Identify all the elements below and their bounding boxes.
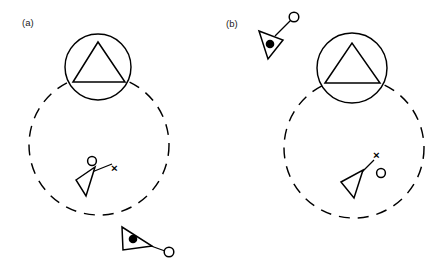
- panel-b: (b) ×: [226, 12, 424, 218]
- panel-a-tether-line: [151, 246, 165, 251]
- panel-a-cross-marker: ×: [111, 162, 118, 174]
- panel-b-tether-line: [275, 20, 291, 36]
- panel-a-tethered-unit-dot: [129, 235, 138, 244]
- panel-a-wedge-pointer: [76, 167, 95, 196]
- panel-b-cross-marker: ×: [373, 149, 380, 161]
- panel-b-tethered-unit-dot: [266, 40, 275, 49]
- panel-b-open-circle-marker: [377, 169, 386, 178]
- panel-b-wedge-pointer: [341, 170, 363, 198]
- diagram-canvas: (a) × (b) ×: [0, 0, 438, 264]
- panel-a-label: (a): [22, 17, 34, 28]
- panel-b-tether-circle: [289, 12, 299, 22]
- panel-a: (a) ×: [22, 17, 174, 257]
- panel-b-label: (b): [226, 18, 238, 29]
- panel-a-open-circle-marker: [88, 157, 97, 166]
- panel-a-tether-circle: [164, 247, 174, 257]
- figure-container: (a) × (b) ×: [0, 0, 438, 264]
